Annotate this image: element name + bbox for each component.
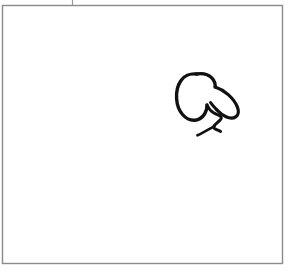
drawing-surface[interactable] (0, 0, 290, 270)
sketch-canvas (0, 0, 290, 270)
canvas-background (0, 0, 290, 270)
